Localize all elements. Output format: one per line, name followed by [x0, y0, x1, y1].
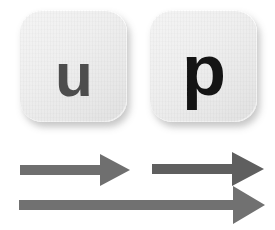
keycap-u[interactable]: u [20, 10, 127, 122]
right-arrow-icon-under-p [152, 150, 266, 188]
right-arrow-icon-full-width [19, 184, 267, 226]
keycap-u-label: u [55, 44, 92, 106]
keycap-diagram: u p [0, 0, 275, 230]
right-arrow-icon-under-u [20, 152, 132, 188]
keycap-p[interactable]: p [150, 10, 257, 122]
keycap-p-label: p [182, 34, 225, 106]
